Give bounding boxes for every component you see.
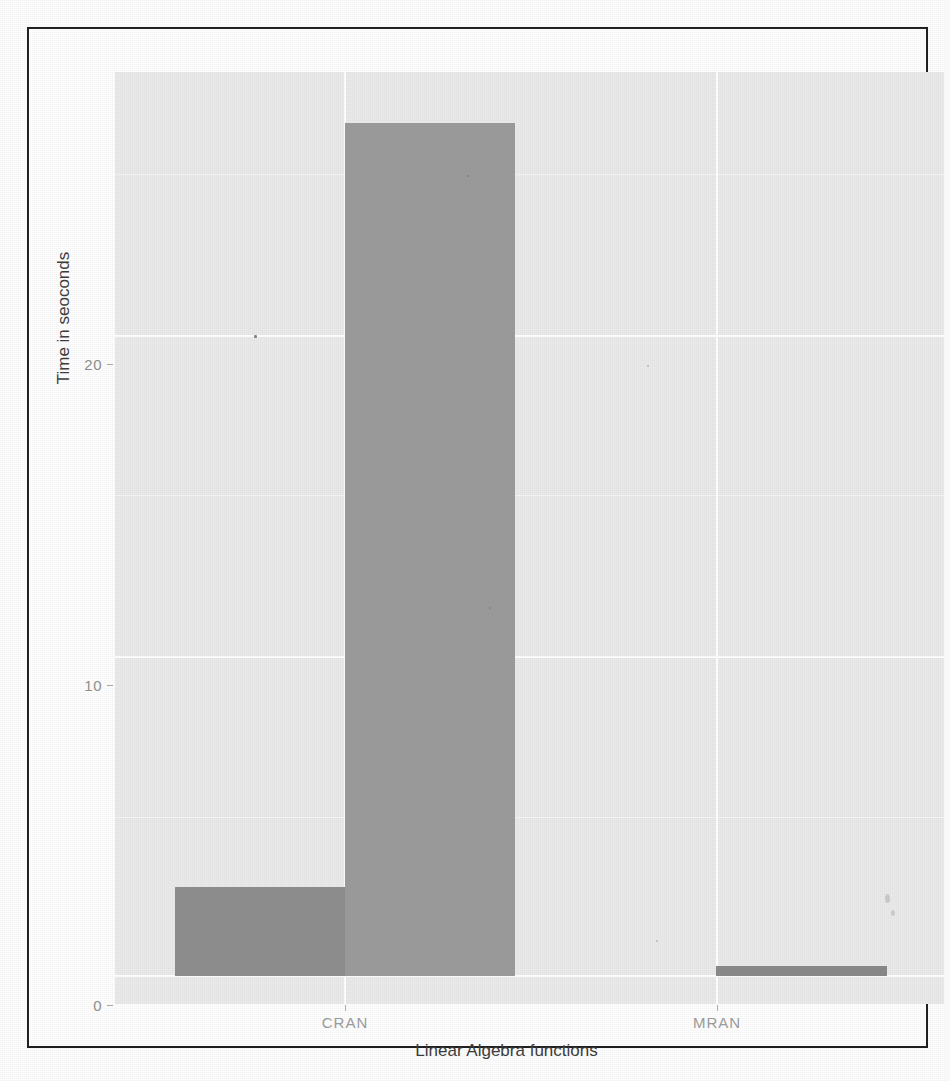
y-tick-label-0: 0 (58, 997, 102, 1014)
gridline-minor-y-5 (115, 817, 944, 818)
bar-mran-1 (716, 966, 887, 976)
gridline-minor-y-25 (115, 174, 944, 175)
bar-chart-figure: 20 10 0 CRAN MRAN Time in seoconds Linea… (58, 58, 950, 1075)
y-axis-title: Time in seoconds (54, 188, 74, 448)
gridline-major-x-mran (716, 72, 718, 1004)
gridline-minor-y-15 (115, 495, 944, 496)
scan-speck (885, 894, 890, 903)
gridline-major-y-20 (115, 335, 944, 337)
scan-speck (489, 607, 491, 609)
y-tick-mark-0 (107, 1005, 113, 1006)
gridline-major-y-10 (115, 656, 944, 658)
x-tick-label-cran: CRAN (322, 1014, 369, 1031)
y-tick-mark-20 (107, 364, 113, 365)
scan-speck (647, 365, 649, 367)
scan-speck (467, 175, 469, 177)
y-tick-label-10: 10 (58, 677, 102, 694)
bar-cran-1 (175, 887, 345, 976)
scan-speck (656, 940, 658, 942)
scan-speck (254, 335, 257, 338)
x-tick-mark-cran (345, 1005, 346, 1011)
scan-speck (891, 910, 895, 916)
bar-cran-2 (345, 123, 515, 976)
x-tick-label-mran: MRAN (693, 1014, 741, 1031)
y-tick-mark-10 (107, 685, 113, 686)
x-tick-mark-mran (717, 1005, 718, 1011)
x-axis-title: Linear Algebra functions (58, 1041, 950, 1061)
page-border-frame: 20 10 0 CRAN MRAN Time in seoconds Linea… (27, 27, 928, 1048)
scanned-page: 20 10 0 CRAN MRAN Time in seoconds Linea… (0, 0, 950, 1081)
plot-panel (115, 72, 944, 1004)
